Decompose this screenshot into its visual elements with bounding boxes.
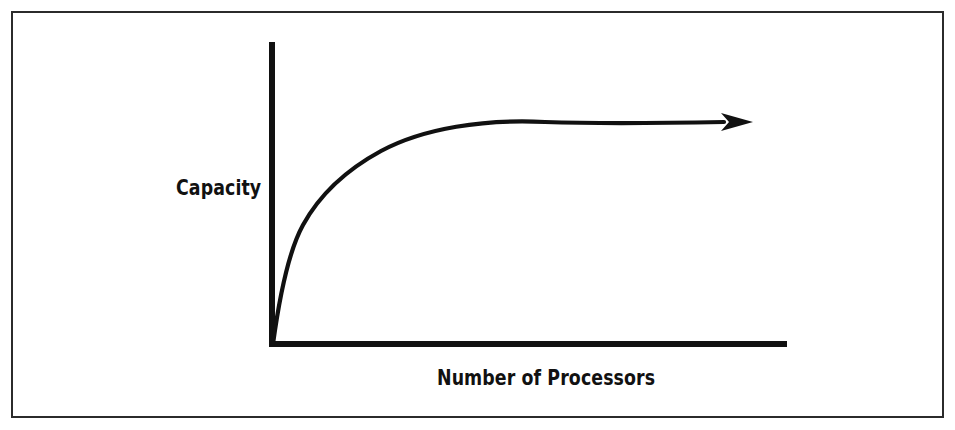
capacity-curve (273, 121, 724, 344)
y-axis-label: Capacity (176, 176, 261, 200)
x-axis-label: Number of Processors (437, 366, 655, 390)
figure-root: Capacity Number of Processors (0, 0, 955, 430)
